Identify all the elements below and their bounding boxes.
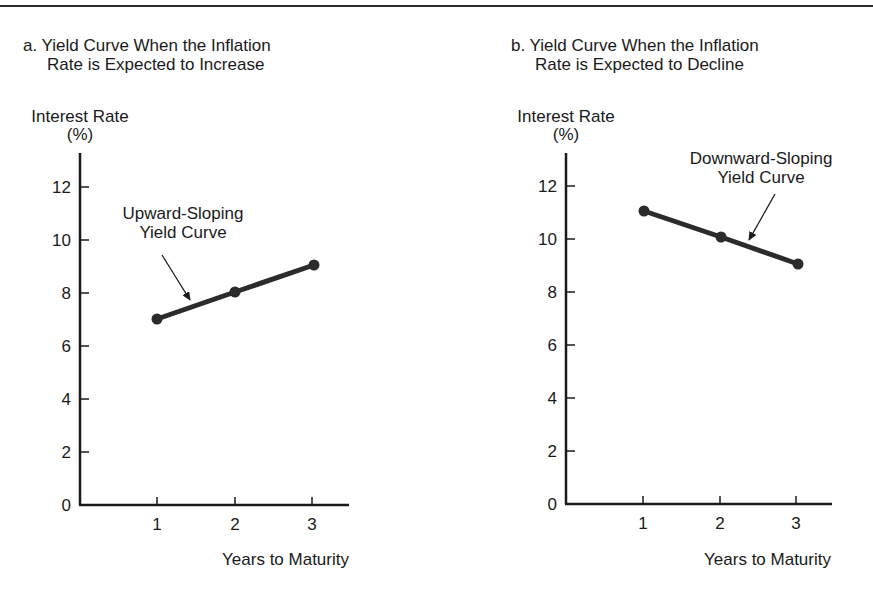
panel-a-chart: Interest Rate (%) 0 2 4 6 8 10 12 — [31, 107, 349, 569]
svg-text:2: 2 — [230, 515, 239, 534]
svg-text:3: 3 — [791, 514, 800, 533]
svg-text:0: 0 — [62, 496, 71, 515]
panel-a-y-ticks — [80, 187, 89, 452]
svg-text:1: 1 — [638, 514, 647, 533]
panel-a-annotation-line2: Yield Curve — [139, 223, 226, 242]
svg-text:6: 6 — [62, 337, 71, 356]
svg-text:0: 0 — [548, 495, 557, 514]
svg-text:3: 3 — [307, 515, 316, 534]
panel-b-y-ticks — [566, 186, 575, 451]
panel-a-ylabel-line2: (%) — [67, 125, 93, 144]
svg-text:6: 6 — [548, 336, 557, 355]
svg-text:10: 10 — [52, 231, 71, 250]
svg-text:10: 10 — [538, 230, 557, 249]
panel-b-annotation-line2: Yield Curve — [717, 168, 804, 187]
panel-a-x-tick-labels: 1 2 3 — [152, 515, 316, 534]
svg-text:2: 2 — [715, 514, 724, 533]
svg-text:4: 4 — [548, 389, 557, 408]
panel-b-annotation-line1: Downward-Sloping — [690, 149, 833, 168]
yield-curve-figure: Interest Rate (%) 0 2 4 6 8 10 12 — [0, 0, 873, 591]
panel-b-y-tick-labels: 0 2 4 6 8 10 12 — [538, 177, 557, 514]
panel-b-ylabel-line2: (%) — [553, 125, 579, 144]
panel-b-chart: Interest Rate (%) 0 2 4 6 8 10 12 — [517, 107, 832, 569]
panel-a-annotation-arrow — [162, 255, 190, 300]
svg-text:2: 2 — [548, 442, 557, 461]
panel-a-xlabel: Years to Maturity — [222, 550, 349, 569]
panel-b-ylabel-line1: Interest Rate — [517, 107, 614, 126]
panel-a-annotation-line1: Upward-Sloping — [123, 204, 244, 223]
panel-b-annotation-arrow — [749, 194, 775, 240]
svg-text:12: 12 — [52, 178, 71, 197]
panel-a-ylabel-line1: Interest Rate — [31, 107, 128, 126]
svg-text:8: 8 — [62, 284, 71, 303]
svg-text:12: 12 — [538, 177, 557, 196]
panel-b-x-tick-labels: 1 2 3 — [638, 514, 800, 533]
svg-text:1: 1 — [152, 515, 161, 534]
panel-a-y-tick-labels: 0 2 4 6 8 10 12 — [52, 178, 71, 515]
svg-text:2: 2 — [62, 443, 71, 462]
panel-b-xlabel: Years to Maturity — [704, 550, 831, 569]
svg-text:8: 8 — [548, 283, 557, 302]
svg-text:4: 4 — [62, 390, 71, 409]
